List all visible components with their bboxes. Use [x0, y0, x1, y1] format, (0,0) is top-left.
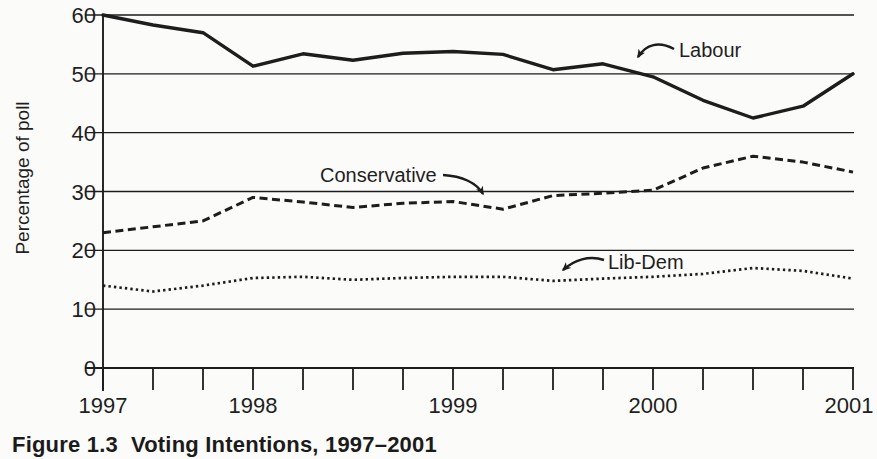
labour-line — [103, 15, 853, 118]
labour-arrow-icon — [638, 45, 674, 57]
x-tick-label: 1999 — [429, 393, 478, 418]
labour-label: Labour — [679, 39, 742, 61]
figure-caption: Figure 1.3 Voting Intentions, 1997–2001 — [12, 432, 437, 458]
y-tick-label: 20 — [72, 238, 96, 263]
y-tick-label: 60 — [72, 3, 96, 28]
x-tick-label: 1997 — [79, 393, 128, 418]
x-axis-ticks — [103, 368, 853, 390]
axis-labels: 010203040506019971998199920002001 — [72, 3, 874, 418]
x-tick-label: 1998 — [229, 393, 278, 418]
y-tick-label: 0 — [84, 356, 96, 381]
libdem-arrow-icon — [563, 258, 604, 270]
y-tick-label: 40 — [72, 121, 96, 146]
libdem-label: Lib-Dem — [608, 251, 684, 273]
voting-intentions-chart: 010203040506019971998199920002001 Percen… — [0, 0, 877, 430]
gridlines — [85, 15, 854, 368]
figure-voting-intentions: 010203040506019971998199920002001 Percen… — [0, 0, 877, 459]
x-tick-label: 2000 — [629, 393, 678, 418]
figure-caption-title: Voting Intentions, 1997–2001 — [131, 432, 437, 458]
lib-dem-line — [103, 268, 853, 292]
x-tick-label: 2001 — [825, 393, 874, 418]
y-tick-label: 50 — [72, 62, 96, 87]
figure-caption-label: Figure 1.3 — [12, 432, 118, 458]
y-tick-label: 30 — [72, 180, 96, 205]
y-tick-label: 10 — [72, 297, 96, 322]
conservative-line — [103, 156, 853, 233]
y-axis-title: Percentage of poll — [12, 101, 33, 254]
conservative-label: Conservative — [320, 164, 437, 186]
